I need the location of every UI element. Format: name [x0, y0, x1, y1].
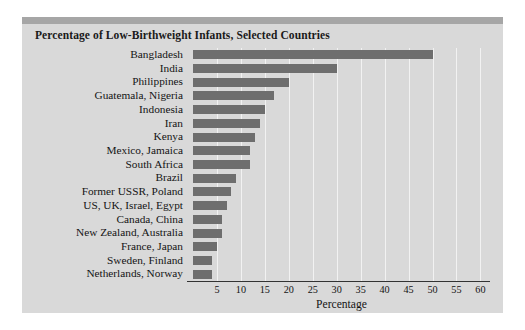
category-label: Bangladesh [130, 48, 183, 62]
category-label: Sweden, Finland [107, 254, 183, 268]
chart-title: Percentage of Low-Birthweight Infants, S… [35, 29, 330, 41]
x-tick-label: 50 [421, 284, 445, 295]
bar [193, 146, 250, 155]
gridline [337, 48, 338, 281]
bar [193, 160, 250, 169]
figure-top-band [22, 17, 503, 24]
bar [193, 215, 222, 224]
category-label: Philippines [132, 75, 183, 89]
bar [193, 201, 227, 210]
x-tick-label: 35 [349, 284, 373, 295]
x-axis-title: Percentage [193, 298, 490, 311]
bar [193, 242, 217, 251]
category-label: India [160, 62, 183, 76]
gridline [433, 48, 434, 281]
category-label: Guatemala, Nigeria [95, 89, 183, 103]
gridline [385, 48, 386, 281]
x-tick-label: 25 [301, 284, 325, 295]
category-axis-labels: BangladeshIndiaPhilippinesGuatemala, Nig… [35, 48, 187, 281]
category-label: Iran [165, 117, 183, 131]
category-label: New Zealand, Australia [76, 226, 183, 240]
bar [193, 256, 212, 265]
category-label: South Africa [126, 158, 183, 172]
x-tick-label: 55 [444, 284, 468, 295]
x-tick-label: 30 [325, 284, 349, 295]
category-label: Former USSR, Poland [82, 185, 183, 199]
bar [193, 78, 289, 87]
category-label: Brazil [155, 171, 183, 185]
x-tick-label: 40 [373, 284, 397, 295]
x-tick-label: 10 [229, 284, 253, 295]
bar [193, 50, 433, 59]
category-label: US, UK, Israel, Egypt [83, 199, 183, 213]
bar [193, 270, 212, 279]
x-axis-line [193, 281, 490, 282]
gridline [361, 48, 362, 281]
bar [193, 187, 231, 196]
x-tick-label: 20 [277, 284, 301, 295]
gridline [456, 48, 457, 281]
x-tick-label: 15 [253, 284, 277, 295]
category-label: Indonesia [139, 103, 183, 117]
x-tick-label: 60 [468, 284, 492, 295]
category-label: Mexico, Jamaica [106, 144, 183, 158]
bar [193, 91, 274, 100]
category-label: Netherlands, Norway [86, 267, 183, 281]
category-label: Kenya [154, 130, 183, 144]
category-label: Canada, China [116, 213, 183, 227]
x-tick-label: 45 [397, 284, 421, 295]
gridline [409, 48, 410, 281]
bar [193, 174, 236, 183]
bar [193, 229, 222, 238]
gridline [289, 48, 290, 281]
gridline [313, 48, 314, 281]
category-label: France, Japan [121, 240, 183, 254]
plot-wrapper: BangladeshIndiaPhilippinesGuatemala, Nig… [35, 48, 490, 301]
bar [193, 119, 260, 128]
x-tick-label: 5 [205, 284, 229, 295]
chart-figure: Percentage of Low-Birthweight Infants, S… [22, 17, 503, 313]
bar [193, 105, 265, 114]
bar [193, 133, 255, 142]
plot-area [193, 48, 490, 281]
gridline [480, 48, 481, 281]
bar [193, 64, 337, 73]
